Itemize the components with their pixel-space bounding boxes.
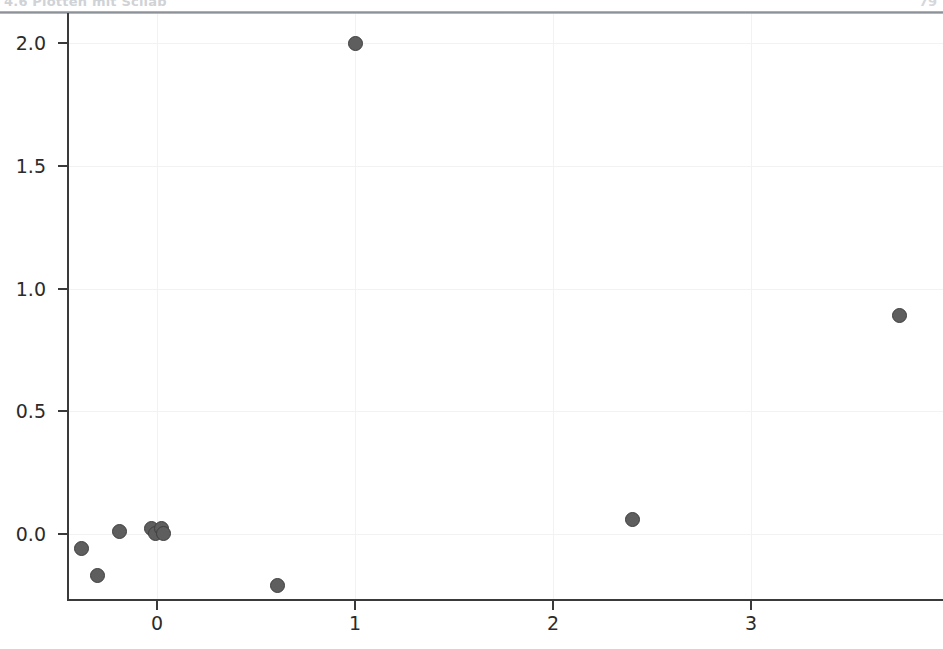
x-axis-tick-label: 2: [533, 614, 573, 633]
plot-area: [68, 14, 943, 600]
gridline-horizontal: [68, 534, 943, 535]
gridline-horizontal: [68, 411, 943, 412]
gridline-horizontal: [68, 289, 943, 290]
x-axis-tick-label: 3: [731, 614, 771, 633]
y-axis-tick-label: 0.5: [0, 402, 46, 421]
y-axis-tick-label: 0.0: [0, 525, 46, 544]
data-point-marker: [90, 568, 105, 583]
x-axis-tick: [156, 601, 158, 610]
y-axis-tick-label: 2.0: [0, 34, 46, 53]
gridline-vertical: [355, 14, 356, 600]
y-axis-tick: [58, 410, 67, 412]
data-point-marker: [892, 308, 907, 323]
x-axis-tick-label: 1: [335, 614, 375, 633]
x-axis-tick: [750, 601, 752, 610]
y-axis-tick: [58, 288, 67, 290]
data-point-marker: [348, 36, 363, 51]
data-point-marker: [112, 524, 127, 539]
x-axis-tick: [552, 601, 554, 610]
data-point-marker: [270, 578, 285, 593]
x-axis-tick-label: 0: [137, 614, 177, 633]
gridline-horizontal: [68, 166, 943, 167]
data-point-marker: [74, 541, 89, 556]
x-axis-tick: [354, 601, 356, 610]
y-axis-tick-label: 1.0: [0, 280, 46, 299]
y-axis-tick: [58, 533, 67, 535]
y-axis-spine: [67, 13, 69, 601]
y-axis-tick: [58, 42, 67, 44]
scatter-plot-figure: 0.00.51.01.52.0 0123: [0, 0, 943, 649]
x-axis-spine: [67, 599, 943, 601]
gridline-horizontal: [68, 43, 943, 44]
gridline-vertical: [157, 14, 158, 600]
y-axis-tick: [58, 165, 67, 167]
data-point-marker: [625, 512, 640, 527]
gridline-vertical: [553, 14, 554, 600]
gridline-vertical: [751, 14, 752, 600]
y-axis-tick-label: 1.5: [0, 157, 46, 176]
data-point-marker: [156, 526, 171, 541]
